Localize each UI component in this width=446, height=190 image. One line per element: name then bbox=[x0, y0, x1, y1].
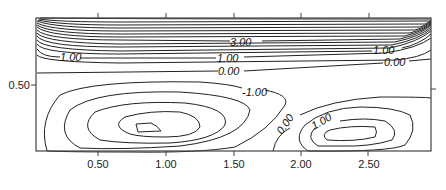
contour-label-0-mid: 0.00 bbox=[218, 65, 240, 77]
x-tick-label: 1.00 bbox=[155, 158, 176, 170]
contour-label-1-left: 1.00 bbox=[60, 51, 82, 63]
contour-label-neg1: -1.00 bbox=[242, 86, 268, 98]
contour-label-3: 3.00 bbox=[230, 36, 252, 48]
contour-label-1-mid: 1.00 bbox=[217, 52, 239, 64]
x-tick-label: 0.50 bbox=[87, 158, 108, 170]
x-axis-ticks bbox=[98, 13, 369, 156]
right-basin-contours bbox=[273, 97, 431, 151]
contour-plot: 3.00 1.00 1.00 1.00 0.00 0.00 -1.00 0.00… bbox=[0, 0, 446, 190]
x-tick-label: 2.50 bbox=[358, 158, 379, 170]
contour-label-0-lower: 0.00 bbox=[274, 111, 297, 136]
contour-label-1-right: 1.00 bbox=[373, 44, 395, 56]
x-tick-labels: 0.50 1.00 1.50 2.00 2.50 bbox=[87, 158, 379, 170]
y-tick-label: 0.50 bbox=[9, 79, 30, 91]
x-tick-label: 2.00 bbox=[290, 158, 311, 170]
contour-label-1-lower: 1.00 bbox=[309, 110, 334, 132]
contour-label-0-right: 0.00 bbox=[384, 56, 406, 68]
x-tick-label: 1.50 bbox=[223, 158, 244, 170]
